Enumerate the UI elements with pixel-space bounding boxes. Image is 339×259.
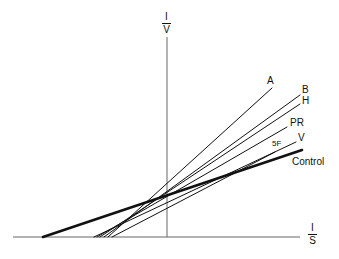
y-axis-label-denominator: V	[163, 24, 170, 35]
series-label-h: H	[302, 96, 309, 106]
y-axis-label: I V	[162, 12, 171, 35]
y-axis-label-numerator: I	[165, 11, 168, 22]
series-line-v	[94, 142, 296, 237]
series-label-5f: 5F	[272, 140, 281, 148]
series-line-a	[108, 88, 272, 237]
series-line-5f	[112, 152, 275, 237]
series-line-h	[100, 104, 300, 237]
x-axis-label: I S	[308, 223, 317, 246]
series-label-v: V	[298, 133, 305, 143]
x-axis-label-numerator: I	[311, 222, 314, 233]
series-label-b: B	[302, 85, 309, 95]
series-line-control	[43, 150, 302, 237]
series-label-pr: PR	[290, 118, 304, 128]
series-label-control: Control	[292, 157, 324, 167]
x-axis-label-denominator: S	[309, 235, 316, 246]
series-label-a: A	[267, 76, 274, 86]
series-lines	[43, 88, 302, 237]
lineweaver-burk-plot	[0, 0, 339, 259]
series-line-pr	[97, 127, 287, 237]
